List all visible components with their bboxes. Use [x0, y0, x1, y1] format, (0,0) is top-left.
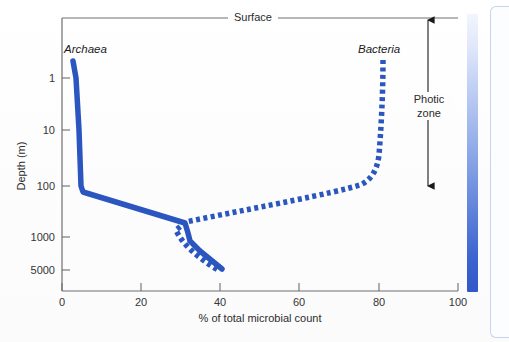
y-axis-title: Depth (m) — [15, 131, 27, 201]
series-label-archaea: Archaea — [64, 43, 107, 55]
x-tick-marks — [62, 283, 458, 291]
y-tick-label-1: 1 — [37, 72, 55, 84]
y-tick-label-100: 100 — [23, 180, 55, 192]
figure-root: 1 10 100 1000 5000 0 20 40 60 80 100 Dep… — [0, 0, 509, 342]
x-tick-label-100: 100 — [446, 296, 470, 308]
series-line-archaea — [73, 61, 222, 269]
adjacent-page-panel — [490, 6, 509, 338]
y-tick-label-5000: 5000 — [16, 264, 55, 276]
x-axis-title: % of total microbial count — [155, 312, 365, 324]
chart-canvas: 1 10 100 1000 5000 0 20 40 60 80 100 Dep… — [0, 0, 470, 342]
x-tick-label-20: 20 — [131, 296, 151, 308]
series-label-bacteria: Bacteria — [358, 43, 400, 55]
surface-label: Surface — [228, 11, 278, 23]
series-line-bacteria — [186, 60, 383, 222]
adjacent-page-edge — [495, 25, 506, 85]
x-tick-label-40: 40 — [210, 296, 230, 308]
x-tick-label-60: 60 — [289, 296, 309, 308]
y-tick-label-10: 10 — [30, 124, 55, 136]
y-tick-label-1000: 1000 — [16, 231, 55, 243]
photic-zone-label-line1: Photic — [406, 93, 452, 105]
depth-gradient-bar — [467, 14, 478, 292]
y-tick-marks — [62, 78, 70, 270]
x-tick-label-80: 80 — [369, 296, 389, 308]
photic-zone-label-line2: zone — [406, 107, 452, 119]
x-tick-label-0: 0 — [52, 296, 72, 308]
